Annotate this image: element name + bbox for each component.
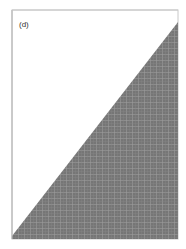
panel-label: (d) xyxy=(19,20,29,30)
diagonal-fill-diagram xyxy=(0,0,186,249)
figure-panel: (d) xyxy=(0,0,186,249)
